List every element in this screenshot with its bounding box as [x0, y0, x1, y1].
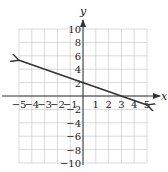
y-axis-label: y: [79, 5, 87, 18]
y-tick-label: 8: [75, 37, 81, 48]
y-tick-label: −2: [66, 104, 81, 115]
y-tick-label: 6: [75, 51, 81, 62]
y-tick-label: −4: [66, 118, 81, 129]
x-tick-label: 2: [105, 99, 111, 110]
y-tick-label: 10: [68, 24, 81, 35]
x-tick-label: 3: [118, 99, 124, 110]
y-tick-label: 4: [75, 64, 81, 75]
y-tick-label: −10: [60, 158, 81, 169]
line-graph: −5−4−3−2−112345−10−8−6−4−2246810 x y: [0, 0, 168, 172]
y-tick-label: −8: [66, 145, 81, 156]
x-axis-label: x: [161, 90, 168, 103]
axes: [2, 20, 160, 165]
x-tick-label: 1: [93, 99, 99, 110]
y-tick-label: −6: [66, 131, 81, 142]
chart-svg: −5−4−3−2−112345−10−8−6−4−2246810 x y: [0, 0, 168, 172]
